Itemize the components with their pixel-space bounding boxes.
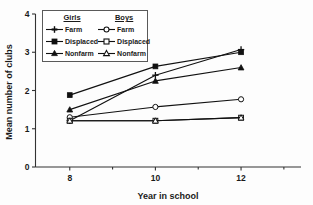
x-tick-label: 8 — [67, 173, 72, 183]
y-tick-label: 3 — [25, 47, 30, 57]
data-point-marker — [238, 97, 243, 102]
square-open-marker-icon — [98, 37, 115, 46]
legend-header-girls: Girls — [46, 12, 98, 24]
legend-item-boys-nonfarm: Nonfarm — [98, 47, 150, 59]
legend-item-girls-nonfarm: Nonfarm — [46, 47, 98, 59]
circle-open-marker-icon — [98, 25, 115, 34]
y-tick-label-group: 01234 — [25, 9, 30, 172]
legend-label: Displaced — [65, 37, 98, 46]
chart-legend: Girls Boys Farm Farm — [42, 10, 148, 62]
data-point-marker — [67, 93, 72, 98]
x-tick-label: 10 — [151, 173, 161, 183]
legend-header-boys: Boys — [98, 12, 150, 24]
triangle-open-marker-icon — [98, 49, 115, 58]
y-tick-label: 1 — [25, 124, 30, 134]
y-tick-label: 4 — [25, 9, 30, 19]
legend-label: Farm — [65, 25, 82, 34]
data-point-marker — [153, 104, 158, 109]
x-tick-label-group: 81012 — [67, 173, 246, 183]
legend-label: Nonfarm — [117, 49, 146, 58]
legend-item-boys-displaced: Displaced — [98, 36, 150, 48]
legend-item-boys-farm: Farm — [98, 24, 150, 36]
y-tick-label: 0 — [25, 162, 30, 172]
legend-label: Displaced — [117, 37, 150, 46]
y-axis-title: Mean number of clubs — [4, 44, 14, 140]
y-tick-label: 2 — [25, 86, 30, 96]
triangle-filled-marker-icon — [46, 49, 63, 58]
legend-item-girls-displaced: Displaced — [46, 36, 98, 48]
line-chart: 01234 81012 Year in school Mean number o… — [0, 0, 313, 205]
x-axis-title: Year in school — [137, 191, 198, 201]
legend-label: Nonfarm — [65, 49, 94, 58]
x-tick-label: 12 — [236, 173, 246, 183]
data-point-marker — [153, 64, 158, 69]
series-boys-nonfarm — [67, 115, 244, 123]
legend-label: Farm — [117, 25, 134, 34]
square-filled-marker-icon — [46, 37, 63, 46]
legend-item-girls-farm: Farm — [46, 24, 98, 36]
data-point-marker — [239, 50, 244, 55]
cross-filled-marker-icon — [46, 25, 63, 34]
